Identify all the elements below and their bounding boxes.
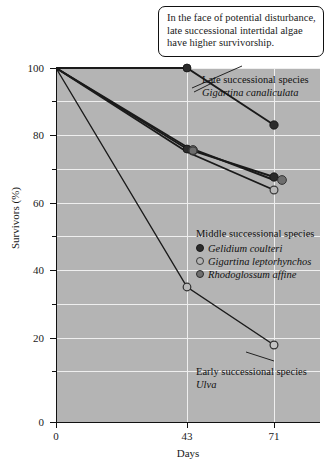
marker-ulva-43 bbox=[183, 283, 191, 291]
marker-gigartina-canaliculata-43 bbox=[183, 64, 191, 72]
marker-gelidium-coulteri-71 bbox=[270, 173, 278, 181]
marker-gigartina-canaliculata-71 bbox=[270, 121, 278, 129]
annotation-late-successional: Late successional species Gigartina cana… bbox=[202, 74, 309, 99]
legend-marker-filled-dark-icon bbox=[196, 244, 204, 252]
marker-rhodoglossum-affine-71 bbox=[278, 176, 287, 185]
callout-line-1: In the face of potential disturbance, bbox=[167, 12, 316, 25]
legend-middle-successional: Middle successional species Gelidium cou… bbox=[196, 228, 314, 281]
legend-marker-filled-mid-icon bbox=[196, 270, 204, 278]
legend-label-gigartina-leptorhynchos: Gigartina leptorhynchos bbox=[208, 255, 311, 268]
late-successional-species: Gigartina canaliculata bbox=[202, 87, 309, 100]
marker-gigartina-leptorhynchos-71 bbox=[270, 186, 278, 194]
marker-ulva-71 bbox=[270, 341, 278, 349]
legend-marker-open-icon bbox=[196, 257, 204, 265]
legend-item-rhodoglossum-affine: Rhodoglossum affine bbox=[196, 268, 314, 281]
legend-item-gelidium-coulteri: Gelidium coulteri bbox=[196, 242, 314, 255]
early-label-leader-line bbox=[246, 352, 274, 361]
survivorship-figure: 100 80 60 40 20 0 0 43 71 Days Survivor bbox=[0, 0, 334, 467]
middle-successional-title: Middle successional species bbox=[196, 228, 314, 241]
early-successional-title: Early successional species bbox=[196, 366, 307, 379]
series-line-ulva bbox=[56, 68, 274, 345]
callout-line-3: have higher survivorship. bbox=[167, 37, 316, 50]
annotation-early-successional: Early successional species Ulva bbox=[196, 366, 307, 391]
callout-box: In the face of potential disturbance, la… bbox=[158, 6, 324, 57]
legend-item-gigartina-leptorhynchos: Gigartina leptorhynchos bbox=[196, 255, 314, 268]
early-successional-species: Ulva bbox=[196, 379, 307, 392]
legend-label-gelidium-coulteri: Gelidium coulteri bbox=[208, 242, 282, 255]
callout-line-2: late successional intertidal algae bbox=[167, 25, 316, 38]
late-successional-title: Late successional species bbox=[202, 74, 309, 87]
legend-label-rhodoglossum-affine: Rhodoglossum affine bbox=[208, 268, 296, 281]
